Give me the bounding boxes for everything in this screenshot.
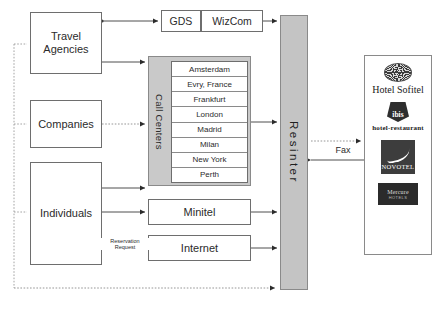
- list-item[interactable]: Perth: [172, 168, 247, 182]
- wizcom-label: WizCom: [212, 15, 252, 27]
- novotel-swoosh-stroke: [385, 143, 412, 164]
- mercure-logo-icon: Mercure HOTELS: [378, 183, 418, 205]
- companies-label: Companies: [38, 118, 94, 131]
- ibis-label: ibis: [392, 110, 403, 119]
- travel-agencies-label-line1: Travel: [43, 30, 88, 43]
- node-travel-agencies[interactable]: Travel Agencies: [30, 12, 102, 74]
- list-item[interactable]: London: [172, 107, 247, 122]
- edge-label-reservation-request: Reservation Request: [100, 238, 150, 250]
- diagram-canvas: Travel Agencies Companies Individuals GD…: [0, 0, 440, 309]
- list-item[interactable]: Milan: [172, 138, 247, 153]
- reservation-request-line2: Request: [115, 244, 136, 250]
- node-minitel[interactable]: Minitel: [148, 199, 251, 225]
- sofitel-sunburst-icon: [384, 63, 412, 82]
- brand-novotel[interactable]: NOVOTEL: [381, 140, 415, 174]
- internet-label: Internet: [181, 242, 218, 255]
- node-resinter[interactable]: Resinter: [280, 15, 308, 290]
- call-centers-list: Amsterdam Evry, France Frankfurt London …: [171, 61, 248, 183]
- node-companies[interactable]: Companies: [30, 100, 102, 148]
- list-item[interactable]: Evry, France: [172, 77, 247, 92]
- novotel-swoosh-icon: NOVOTEL: [381, 140, 415, 174]
- mercure-tagline: HOTELS: [389, 195, 407, 200]
- node-wizcom[interactable]: WizCom: [201, 10, 263, 32]
- travel-agencies-label-line2: Agencies: [43, 43, 88, 56]
- individuals-label: Individuals: [40, 207, 92, 220]
- ibis-shield-icon: ibis: [387, 102, 409, 122]
- node-internet[interactable]: Internet: [148, 235, 251, 261]
- novotel-label: NOVOTEL: [382, 163, 415, 170]
- resinter-label: Resinter: [288, 121, 300, 184]
- list-item[interactable]: Amsterdam: [172, 62, 247, 77]
- node-gds[interactable]: GDS: [161, 10, 201, 32]
- ibis-tagline: hotel-restaurant: [372, 124, 424, 132]
- minitel-label: Minitel: [184, 206, 216, 219]
- call-centers-label: Call Centers: [149, 57, 169, 187]
- panel-hotel-brands[interactable]: Hotel Sofitel ibis hotel-restaurant NOVO…: [364, 55, 432, 255]
- panel-call-centers[interactable]: Call Centers Amsterdam Evry, France Fran…: [148, 56, 251, 186]
- list-item[interactable]: Madrid: [172, 123, 247, 138]
- sofitel-label: Hotel Sofitel: [372, 84, 423, 95]
- list-item[interactable]: New York: [172, 153, 247, 168]
- brand-sofitel[interactable]: Hotel Sofitel: [372, 63, 423, 95]
- gds-label: GDS: [170, 15, 193, 27]
- list-item[interactable]: Frankfurt: [172, 92, 247, 107]
- brand-mercure[interactable]: Mercure HOTELS: [378, 183, 418, 205]
- brand-ibis[interactable]: ibis hotel-restaurant: [372, 102, 424, 132]
- node-individuals[interactable]: Individuals: [30, 162, 102, 265]
- edge-label-fax: Fax: [330, 146, 356, 156]
